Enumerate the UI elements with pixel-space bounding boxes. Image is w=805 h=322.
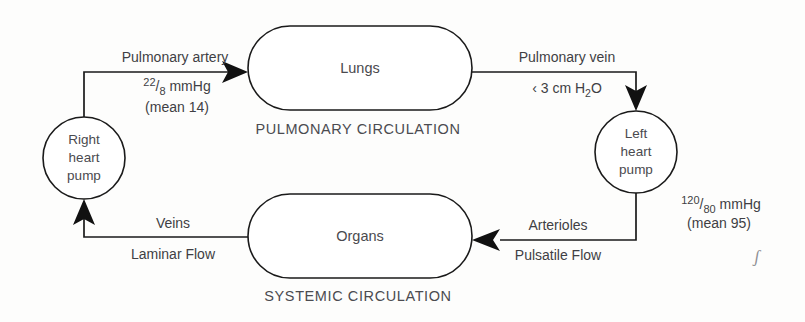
circulation-diagram-canvas: Lungs Organs Right heart pump Left heart… — [0, 0, 805, 322]
pulmonary-artery-pressure-unit: mmHg — [166, 78, 211, 94]
pulmonary-artery-label: Pulmonary artery — [122, 49, 229, 65]
circulation-diagram: Lungs Organs Right heart pump Left heart… — [0, 0, 805, 322]
pulmonary-vein-label: Pulmonary vein — [519, 49, 616, 65]
pulmonary-vein-pressure-suffix: O — [591, 80, 602, 96]
right-heart-pump-label-line3: pump — [67, 168, 101, 183]
systemic-pressure-mean: (mean 95) — [687, 215, 751, 231]
pulmonary-artery-mean: (mean 14) — [145, 99, 209, 115]
veins-label: Veins — [156, 215, 190, 231]
stray-pen-mark: ʃ — [752, 247, 762, 266]
pulmonary-circulation-caption: PULMONARY CIRCULATION — [255, 121, 460, 137]
right-heart-pump-label-line1: Right — [68, 132, 100, 147]
laminar-flow-label: Laminar Flow — [131, 246, 216, 262]
systemic-pressure: 120/80 mmHg — [681, 194, 761, 215]
left-heart-pump-label-line3: pump — [619, 162, 653, 177]
systemic-pressure-diastolic: 80 — [703, 203, 715, 215]
systemic-pressure-systolic: 120 — [681, 194, 699, 206]
organs-node-label: Organs — [336, 228, 384, 244]
arterioles-arrowhead — [472, 229, 500, 251]
pulmonary-artery-pressure-systolic: 22 — [143, 76, 155, 88]
lungs-node-label: Lungs — [340, 60, 380, 76]
arterioles-label: Arterioles — [528, 217, 587, 233]
pulmonary-artery-pressure: 22/8 mmHg — [143, 76, 210, 97]
left-heart-pump-label-line2: heart — [621, 144, 652, 159]
systemic-circulation-caption: SYSTEMIC CIRCULATION — [264, 288, 451, 304]
right-heart-pump-label-line2: heart — [69, 150, 100, 165]
pulsatile-flow-label: Pulsatile Flow — [515, 247, 602, 263]
left-heart-pump-label-line1: Left — [625, 126, 648, 141]
pulmonary-vein-pressure: ‹ 3 cm H2O — [532, 80, 602, 99]
systemic-pressure-unit: mmHg — [716, 196, 761, 212]
pulmonary-vein-pressure-prefix: ‹ 3 cm H — [532, 80, 585, 96]
